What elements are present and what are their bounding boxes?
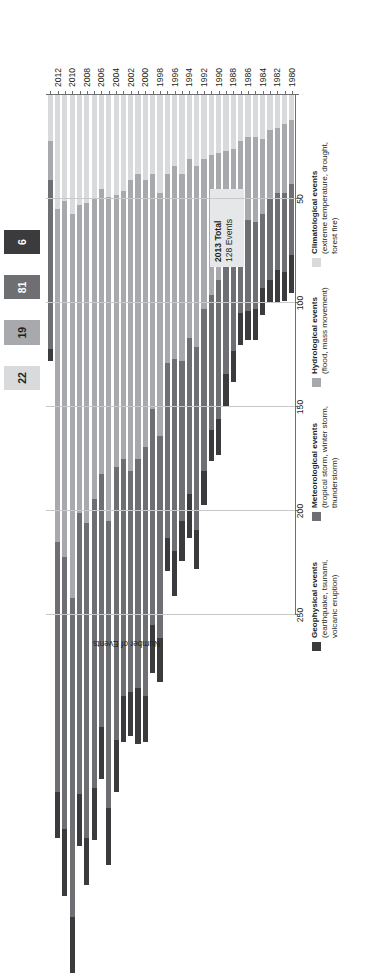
bar-segment	[260, 214, 265, 289]
bar-segment	[245, 137, 250, 220]
bar-segment	[187, 160, 192, 339]
category-axis-tick	[50, 91, 51, 95]
bar-segment	[114, 467, 119, 739]
bar-segment	[253, 137, 258, 222]
total-annotation-line2: 128 Events	[224, 194, 235, 262]
total-annotation-line1: 2013 Total	[213, 194, 224, 262]
bar-segment	[253, 222, 258, 309]
bar-segment	[157, 436, 162, 638]
legend: Geophysical events (earthquake, tsunami,…	[310, 2, 366, 657]
bar-segment	[201, 309, 206, 471]
value-axis-tick	[295, 302, 299, 303]
category-axis-label: 1984	[258, 68, 268, 87]
legend-item-hydrological: Hydrological events (flood, mass movemen…	[310, 281, 330, 387]
value-axis-tick	[295, 614, 299, 615]
legend-swatch-climatological-icon	[312, 258, 321, 267]
bar-segment	[275, 95, 280, 128]
bar-segment	[48, 141, 53, 181]
category-axis-tick	[145, 91, 146, 95]
bar-segment	[70, 598, 75, 916]
legend-item-meteorological: Meteorological events (tropical storm, w…	[310, 399, 341, 521]
legend-title: Meteorological events	[310, 423, 319, 508]
bar-segment	[128, 180, 133, 471]
bar-segment	[84, 95, 89, 203]
bar-segment	[121, 696, 126, 742]
bar-segment	[201, 95, 206, 159]
category-axis-tick	[80, 91, 81, 95]
category-axis-label: 2000	[140, 68, 150, 87]
bar-segment	[157, 95, 162, 193]
count-box-meteorological: 81	[4, 275, 40, 299]
bar-row	[62, 95, 67, 615]
legend-subtitle: (earthquake, tsunami, volcanic eruption)	[320, 560, 339, 638]
bar-segment	[77, 513, 82, 794]
bar-row	[84, 95, 89, 615]
category-axis-tick	[109, 91, 110, 95]
bar-segment	[194, 166, 199, 347]
category-axis-label: 2008	[82, 68, 92, 87]
bar-segment	[267, 130, 272, 199]
gridline	[46, 510, 295, 511]
legend-title: Geophysical events	[310, 562, 319, 638]
bar-segment	[172, 95, 177, 166]
bar-segment	[55, 95, 60, 209]
bar-segment	[209, 95, 214, 155]
bar-row	[209, 95, 214, 615]
bar-segment	[135, 95, 140, 174]
bar-segment	[157, 193, 162, 436]
bar-row	[267, 95, 272, 615]
category-axis-label: 2002	[126, 68, 136, 87]
bar-row	[99, 95, 104, 615]
value-axis-tick	[295, 510, 299, 511]
bar-row	[106, 95, 111, 615]
bar-segment	[260, 139, 265, 214]
bar-segment	[106, 197, 111, 521]
bar-segment	[223, 374, 228, 407]
bar-segment	[209, 295, 214, 430]
legend-subtitle: (tropical storm, winter storm, thunderst…	[320, 406, 339, 508]
gridline	[46, 406, 295, 407]
count-box-hydrological: 19	[4, 321, 40, 345]
bar-segment	[282, 124, 287, 193]
bar-segment	[70, 917, 75, 973]
bar-segment	[231, 351, 236, 382]
bar-segment	[62, 95, 67, 201]
category-axis-tick	[277, 91, 278, 95]
bar-segment	[179, 361, 184, 521]
value-axis-tick-label: 200	[295, 504, 305, 518]
legend-title: Hydrological events	[310, 297, 319, 374]
bar-segment	[289, 95, 294, 120]
category-axis-label: 1980	[287, 68, 297, 87]
bar-segment	[99, 95, 104, 189]
category-axis-tick	[94, 91, 95, 95]
bar-segment	[77, 205, 82, 513]
bar-segment	[135, 688, 140, 744]
bar-row	[157, 95, 162, 615]
bar-segment	[48, 95, 53, 141]
category-axis-tick	[131, 91, 132, 95]
bar-segment	[150, 625, 155, 673]
bar-segment	[216, 419, 221, 454]
bar-segment	[282, 193, 287, 272]
bar-segment	[150, 409, 155, 625]
bar-segment	[165, 95, 170, 174]
category-axis-tick	[58, 91, 59, 95]
gridline	[46, 302, 295, 303]
category-axis-tick	[255, 91, 256, 95]
bar-segment	[55, 792, 60, 838]
category-axis-line	[46, 94, 299, 95]
bar-segment	[194, 95, 199, 166]
bar-segment	[135, 459, 140, 688]
bar-segment	[267, 280, 272, 303]
category-axis-label: 2006	[96, 68, 106, 87]
bar-row	[289, 95, 294, 615]
bar-segment	[289, 255, 294, 292]
bar-segment	[114, 95, 119, 195]
count-box-climatological: 22	[4, 366, 40, 390]
bar-row	[121, 95, 126, 615]
value-axis-tick-label: 50	[295, 194, 305, 204]
value-axis-tick	[295, 406, 299, 407]
bar-segment	[245, 311, 250, 340]
bar-row	[70, 95, 75, 615]
